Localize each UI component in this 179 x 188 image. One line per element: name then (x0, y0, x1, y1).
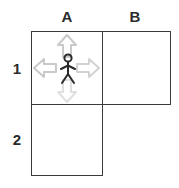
row-header-1: 1 (9, 61, 25, 77)
grid-puzzle-canvas: A B 1 2 (0, 0, 179, 188)
grid-cell-b1[interactable] (102, 31, 171, 105)
stick-figure-icon[interactable] (58, 53, 78, 85)
column-header-a: A (57, 9, 77, 25)
cell-a1-content (32, 32, 102, 104)
arrow-right-icon[interactable] (76, 57, 100, 79)
grid-cell-a2[interactable] (31, 104, 103, 176)
row-header-2: 2 (9, 132, 25, 148)
grid-cell-a1[interactable] (31, 31, 103, 105)
column-header-b: B (125, 9, 145, 25)
arrow-left-icon[interactable] (33, 57, 57, 79)
